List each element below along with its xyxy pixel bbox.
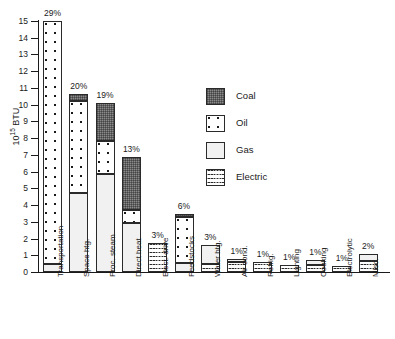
legend-swatch-electric <box>206 169 225 186</box>
x-axis-label: Proc. steam <box>109 234 117 277</box>
x-axis-label: Refrig. <box>267 253 275 277</box>
bar-value-label: 13% <box>116 145 147 154</box>
x-axis-label: Lighting <box>293 249 301 277</box>
x-axis-label: Direct heat <box>135 238 143 277</box>
legend-swatch-gas <box>206 142 225 159</box>
x-axis-label: Water htg. <box>214 240 222 277</box>
bar-segment-oil <box>122 210 141 223</box>
bar-value-label: 20% <box>63 82 94 91</box>
chart-figure: 0123456789101112131415 1015 BTU 29%20%19… <box>0 0 395 339</box>
bar-segment-oil <box>69 101 88 193</box>
x-axis-label: Misc. <box>372 258 380 277</box>
bar-segment-coal <box>122 157 141 210</box>
x-axis-label: Transportation <box>57 226 65 277</box>
bars-container: 29%20%19%13%3%6%3%1%1%1%1%1%2% <box>0 0 395 339</box>
x-axis-label: Air cond. <box>241 245 249 277</box>
bar-segment-coal <box>175 214 194 217</box>
bar-value-label: 29% <box>37 9 68 18</box>
bar-segment-oil <box>96 141 115 174</box>
bar-value-label: 2% <box>353 242 384 251</box>
plot-area: 0123456789101112131415 1015 BTU 29%20%19… <box>0 0 395 339</box>
bar-segment-coal <box>69 94 88 102</box>
x-axis-label: Space htg. <box>83 239 91 277</box>
legend-swatch-coal <box>206 88 225 105</box>
bar-segment-coal <box>96 103 115 141</box>
legend-label: Oil <box>236 118 248 128</box>
x-axis-label: Electrolytic <box>346 238 354 277</box>
x-axis-label: Elect. drive <box>162 237 170 277</box>
bar-value-label: 19% <box>90 91 121 100</box>
legend-swatch-oil <box>206 115 225 132</box>
legend-label: Coal <box>236 91 256 101</box>
legend-label: Electric <box>236 172 267 182</box>
bar-value-label: 6% <box>169 202 200 211</box>
legend-label: Gas <box>236 145 253 155</box>
x-axis-label: Cooking <box>320 248 328 277</box>
x-axis-label: Feedstocks <box>188 236 196 277</box>
